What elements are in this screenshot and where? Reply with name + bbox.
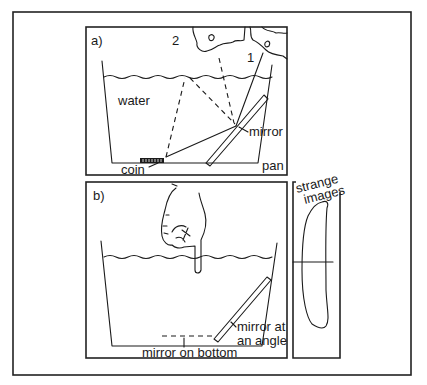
mirror-angle-label-2: an angle bbox=[237, 333, 287, 348]
ray-dashed-3 bbox=[219, 58, 234, 123]
mirror-label: mirror bbox=[249, 124, 284, 139]
eye-right-icon bbox=[265, 41, 270, 47]
water-surface-b bbox=[104, 256, 272, 259]
panel-a: a) 2 1 water coin mirror pan bbox=[86, 27, 287, 177]
coin-label: coin bbox=[121, 162, 145, 177]
panel-a-frame bbox=[86, 27, 287, 175]
ray-dashed-1 bbox=[166, 78, 185, 157]
eye-left-icon bbox=[209, 35, 214, 41]
water-label: water bbox=[117, 93, 150, 108]
viewpoint-1-label: 1 bbox=[247, 50, 254, 65]
panel-strange-images: strange images bbox=[293, 171, 347, 358]
coin-ticks bbox=[143, 159, 161, 162]
water-surface bbox=[104, 76, 272, 79]
hair-right-icon bbox=[262, 27, 287, 33]
panel-a-label: a) bbox=[91, 33, 103, 48]
face-left-icon bbox=[193, 27, 245, 51]
outer-frame bbox=[13, 12, 411, 375]
ray-dashed-2 bbox=[190, 78, 235, 124]
strange-image-blob bbox=[302, 201, 328, 328]
mirror-bottom-label: mirror on bottom bbox=[142, 345, 237, 360]
panel-b: b) mirror at an angle mirror on bottom bbox=[86, 182, 287, 360]
strange-panel-frame bbox=[293, 182, 340, 358]
panel-b-label: b) bbox=[93, 188, 105, 203]
face-right-icon bbox=[250, 27, 287, 59]
mirror-angle-label-1: mirror at bbox=[237, 319, 286, 334]
figure-canvas: a) 2 1 water coin mirror pan b) bbox=[0, 0, 427, 385]
hand-knuckle-icon bbox=[172, 226, 190, 242]
viewpoint-2-label: 2 bbox=[172, 33, 179, 48]
pan-label: pan bbox=[262, 158, 284, 173]
ray-coin-to-mirror bbox=[166, 126, 236, 157]
coin-leader bbox=[149, 163, 158, 167]
